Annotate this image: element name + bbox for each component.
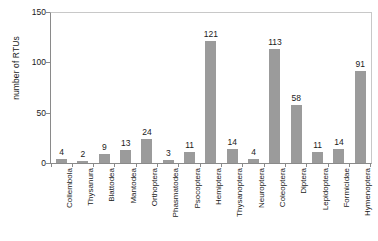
x-axis-category-labels: CollembolaThysanuraBlattodeaMantodeaOrth…	[51, 168, 371, 241]
bar-chart: number of RTUs 050100150 429132431112114…	[0, 0, 378, 241]
bar[interactable]	[141, 139, 152, 163]
x-label-slot: Mantodea	[115, 168, 136, 241]
x-tick-mark	[349, 164, 350, 167]
bar[interactable]	[77, 161, 88, 163]
x-tick-mark	[242, 164, 243, 167]
bar[interactable]	[291, 105, 302, 163]
bar[interactable]	[355, 71, 366, 163]
y-tick-mark-150	[46, 12, 50, 13]
y-tick-label-100: 100	[24, 58, 46, 67]
x-label-slot: Thysanura	[72, 168, 93, 241]
y-tick-label-0: 0	[24, 159, 46, 168]
x-tick-mark	[93, 164, 94, 167]
bar[interactable]	[227, 149, 238, 163]
x-tick-mark	[136, 164, 137, 167]
bar-slot: 14	[328, 12, 349, 163]
x-label-slot: Phasmatodea	[158, 168, 179, 241]
y-tick-mark-50	[46, 113, 50, 114]
x-label-slot: Orthoptera	[136, 168, 157, 241]
y-axis-tick-labels: 050100150	[22, 0, 46, 241]
y-tick-label-150: 150	[24, 8, 46, 17]
x-tick-mark	[221, 164, 222, 167]
x-tick-mark	[72, 164, 73, 167]
bar-slot: 91	[350, 12, 371, 163]
bar[interactable]	[312, 152, 323, 163]
bar[interactable]	[205, 41, 216, 163]
bar-slot: 2	[72, 12, 93, 163]
bar[interactable]	[120, 150, 131, 163]
bar[interactable]	[99, 154, 110, 163]
y-tick-mark-0	[46, 163, 50, 164]
x-tick-mark	[51, 164, 52, 167]
x-label-slot: Psocoptera	[179, 168, 200, 241]
y-axis-title: number of RTUs	[11, 13, 21, 123]
bar[interactable]	[163, 160, 174, 163]
x-label-slot: Neuroptera	[243, 168, 264, 241]
x-label-slot: Blattodea	[94, 168, 115, 241]
x-tick-mark	[328, 164, 329, 167]
x-tick-mark	[285, 164, 286, 167]
x-tick-mark	[200, 164, 201, 167]
x-label-slot: Lepidoptera	[307, 168, 328, 241]
bars-container: 429132431112114411358111491	[51, 12, 371, 163]
x-category-label: Hymenoptera	[364, 168, 372, 216]
x-label-slot: Collembola	[51, 168, 72, 241]
bar[interactable]	[184, 152, 195, 163]
bar[interactable]	[248, 159, 259, 163]
x-tick-mark	[370, 164, 371, 167]
x-tick-mark	[264, 164, 265, 167]
y-tick-label-50: 50	[24, 109, 46, 118]
bar-slot: 13	[115, 12, 136, 163]
bar[interactable]	[333, 149, 344, 163]
bar[interactable]	[269, 49, 280, 163]
bar[interactable]	[56, 159, 67, 163]
x-label-slot: Formicidae	[328, 168, 349, 241]
x-label-slot: Hymenoptera	[350, 168, 371, 241]
x-tick-mark	[157, 164, 158, 167]
bar-slot: 14	[222, 12, 243, 163]
x-label-slot: Hemiptera	[200, 168, 221, 241]
bar-value-label: 91	[345, 60, 375, 69]
x-label-slot: Diptera	[286, 168, 307, 241]
x-label-slot: Coleoptera	[264, 168, 285, 241]
bar-slot: 113	[264, 12, 285, 163]
bar-slot: 4	[51, 12, 72, 163]
x-tick-mark	[178, 164, 179, 167]
x-label-slot: Thysanoptera	[222, 168, 243, 241]
x-tick-mark	[306, 164, 307, 167]
x-tick-mark	[114, 164, 115, 167]
bar-slot: 4	[243, 12, 264, 163]
bar-slot: 24	[136, 12, 157, 163]
y-tick-mark-100	[46, 62, 50, 63]
